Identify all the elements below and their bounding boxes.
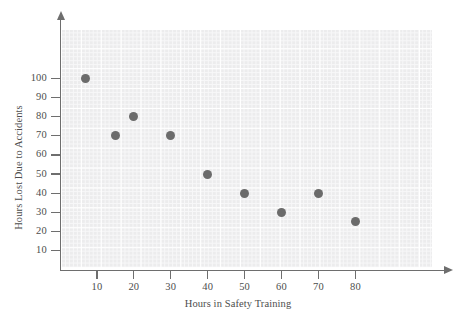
y-tick-label: 90 [21, 92, 47, 103]
x-tick-label: 10 [82, 281, 112, 292]
x-tick-label: 50 [230, 281, 260, 292]
data-point [203, 170, 212, 179]
y-axis-arrow-icon [57, 11, 65, 20]
data-point [277, 208, 286, 217]
y-tick-20 [51, 231, 61, 232]
x-axis-title: Hours in Safety Training [0, 298, 476, 309]
y-tick-label: 100 [21, 73, 47, 84]
x-tick-80 [355, 270, 356, 279]
x-axis-line [60, 270, 448, 271]
y-tick-label: 50 [21, 169, 47, 180]
y-tick-70 [51, 135, 61, 136]
scatter-plot-figure: 102030405060708090100 1020304050607080 H… [0, 0, 476, 321]
x-tick-label: 20 [119, 281, 149, 292]
y-tick-label: 30 [21, 207, 47, 218]
x-tick-label: 40 [193, 281, 223, 292]
x-tick-30 [170, 270, 171, 279]
x-tick-60 [281, 270, 282, 279]
y-tick-40 [51, 193, 61, 194]
x-tick-40 [207, 270, 208, 279]
data-point [314, 189, 323, 198]
x-tick-10 [96, 270, 97, 279]
y-tick-label: 20 [21, 226, 47, 237]
y-tick-60 [51, 154, 61, 155]
x-tick-50 [244, 270, 245, 279]
y-tick-10 [51, 250, 61, 251]
y-tick-label: 60 [21, 149, 47, 160]
y-tick-100 [51, 78, 61, 79]
y-axis-title: Hours Lost Due to Accidents [13, 78, 24, 258]
y-tick-90 [51, 97, 61, 98]
y-axis-line [60, 18, 61, 271]
x-tick-label: 60 [267, 281, 297, 292]
y-tick-label: 70 [21, 130, 47, 141]
y-tick-50 [51, 173, 61, 174]
y-tick-label: 10 [21, 245, 47, 256]
y-tick-30 [51, 212, 61, 213]
y-tick-80 [51, 116, 61, 117]
data-point [240, 189, 249, 198]
plot-grid-background [61, 30, 432, 268]
x-tick-20 [133, 270, 134, 279]
y-tick-label: 80 [21, 111, 47, 122]
x-tick-70 [318, 270, 319, 279]
y-tick-label: 40 [21, 188, 47, 199]
x-tick-label: 80 [340, 281, 370, 292]
x-tick-label: 30 [156, 281, 186, 292]
x-axis-arrow-icon [444, 266, 453, 274]
x-tick-label: 70 [303, 281, 333, 292]
